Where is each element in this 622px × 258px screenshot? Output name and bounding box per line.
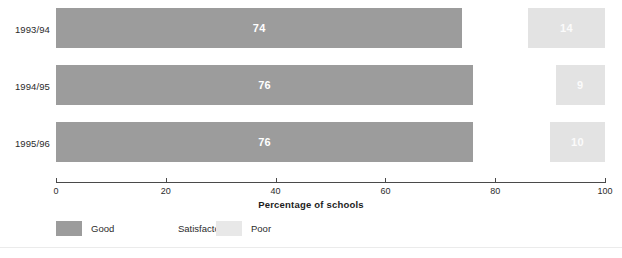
x-axis-tick (56, 178, 57, 183)
bar-segment-satisfactory (462, 8, 528, 48)
x-axis-title: Percentage of schools (0, 199, 622, 210)
x-axis-tick (495, 178, 496, 183)
bar-segment-poor: 10 (550, 122, 605, 162)
legend-swatch-icon (56, 221, 82, 236)
x-axis-line (56, 182, 605, 183)
legend-item-poor: Poor (216, 218, 271, 238)
bar-row: 76 10 (56, 122, 605, 162)
bar-row: 74 14 (56, 8, 605, 48)
bottom-divider (0, 247, 622, 248)
bar-segment-good: 76 (56, 122, 473, 162)
x-axis-tick-label: 40 (271, 186, 281, 196)
legend-swatch-icon (216, 221, 242, 236)
bar-segment-poor: 9 (556, 65, 605, 105)
bar-value-label: 76 (258, 80, 271, 91)
bar-value-label: 14 (560, 23, 573, 34)
x-axis-tick-label: 100 (597, 186, 612, 196)
bar-value-label: 9 (577, 80, 583, 91)
x-axis-tick-label: 80 (490, 186, 500, 196)
legend-item-satisfactory: Satisfactory (143, 218, 228, 238)
x-axis-tick-label: 20 (161, 186, 171, 196)
legend-swatch-icon (143, 221, 169, 236)
legend-item-good: Good (56, 218, 114, 238)
category-label-1994-95: 1994/95 (0, 81, 50, 92)
stacked-bar-chart: 1993/94 1994/95 1995/96 74 14 76 9 (0, 0, 622, 258)
bar-segment-good: 74 (56, 8, 462, 48)
plot-area: 74 14 76 9 76 (56, 0, 605, 182)
category-label-1995-96: 1995/96 (0, 138, 50, 149)
x-axis-tick (385, 178, 386, 183)
x-axis-tick-label: 60 (380, 186, 390, 196)
bar-segment-good: 76 (56, 65, 473, 105)
bar-value-label: 10 (571, 137, 584, 148)
legend-label: Good (91, 223, 114, 234)
bar-segment-satisfactory (473, 122, 550, 162)
x-axis-tick-label: 0 (53, 186, 58, 196)
category-label-1993-94: 1993/94 (0, 24, 50, 35)
bar-row: 76 9 (56, 65, 605, 105)
bar-value-label: 74 (253, 23, 266, 34)
bar-segment-poor: 14 (528, 8, 605, 48)
x-axis-tick (276, 178, 277, 183)
x-axis-tick (605, 178, 606, 183)
x-axis-tick (166, 178, 167, 183)
bar-value-label: 76 (258, 137, 271, 148)
legend-label: Poor (251, 223, 271, 234)
bar-segment-satisfactory (473, 65, 555, 105)
